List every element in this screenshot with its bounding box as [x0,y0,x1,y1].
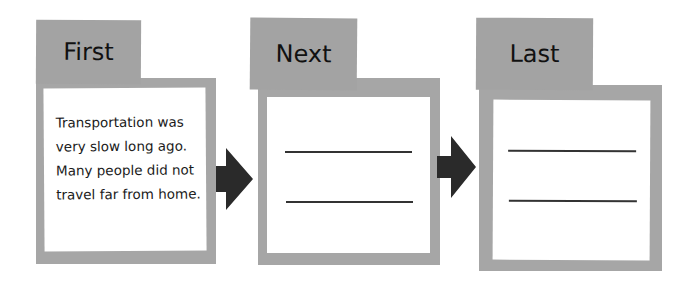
step-first-text: Transportation was very slow long ago. M… [56,109,207,206]
step-next-card [267,97,430,253]
answer-line[interactable] [509,200,637,202]
step-last-card [493,100,651,261]
step-first-tab: First [36,20,141,85]
step-next-label: Next [275,40,331,68]
answer-line[interactable] [285,151,412,153]
answer-line[interactable] [286,201,413,203]
step-first-card: Transportation was very slow long ago. M… [43,87,206,251]
arrow-right-icon [437,136,477,198]
arrow-right-icon [216,148,254,210]
answer-line[interactable] [508,150,636,152]
step-first-label: First [63,38,114,66]
step-next-tab: Next [250,18,358,91]
step-last-tab: Last [476,18,593,91]
step-last-label: Last [509,40,559,68]
